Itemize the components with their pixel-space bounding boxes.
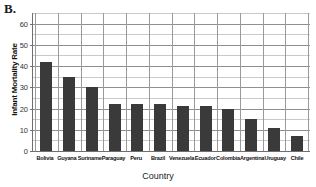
bar xyxy=(154,104,166,151)
y-axis-tick-label: 30 xyxy=(20,83,28,92)
bar xyxy=(109,104,121,151)
bar xyxy=(268,128,280,151)
y-axis-tick-label: 10 xyxy=(20,125,28,134)
x-axis-title: Country xyxy=(0,171,316,181)
y-axis-tick-label: 40 xyxy=(20,62,28,71)
y-axis-tick-label: 20 xyxy=(20,104,28,113)
figure-panel-b: B. Infant Mortality Rate 0102030405060 B… xyxy=(0,0,316,187)
bar-slot xyxy=(103,13,126,151)
x-axis-tick-label: Colombia xyxy=(216,154,240,168)
bar-slot xyxy=(194,13,217,151)
x-axis-tick-label: Suriname xyxy=(78,154,102,168)
y-axis-tick-label: 60 xyxy=(20,19,28,28)
x-axis-tick-label: Paraguay xyxy=(102,154,126,168)
bar xyxy=(177,106,189,151)
y-axis-title: Infant Mortality Rate xyxy=(10,15,19,145)
bar xyxy=(131,104,143,151)
bar-slot xyxy=(126,13,149,151)
bar xyxy=(40,62,52,151)
bar xyxy=(200,106,212,151)
x-axis-tick-label: Argentina xyxy=(240,154,264,168)
bar-slot xyxy=(285,13,308,151)
bar-slot xyxy=(58,13,81,151)
bar-slot xyxy=(240,13,263,151)
x-axis-tick-label: Venezuela xyxy=(169,154,194,168)
y-axis-tick xyxy=(30,151,33,152)
bar xyxy=(222,109,234,151)
x-axis-tick-label: Guyana xyxy=(56,154,78,168)
y-axis-tick-label: 50 xyxy=(20,40,28,49)
bar-slot xyxy=(149,13,172,151)
bar xyxy=(291,136,303,151)
x-axis-tick-label: Ecuador xyxy=(194,154,216,168)
bar xyxy=(86,87,98,151)
plot-area: 0102030405060 xyxy=(32,13,310,152)
x-axis-tick-label: Chile xyxy=(286,154,308,168)
x-axis-tick-label: Uruguay xyxy=(264,154,286,168)
bar-slot xyxy=(263,13,286,151)
bar-series xyxy=(33,13,310,151)
bar xyxy=(245,119,257,151)
x-axis-tick-label: Bolivia xyxy=(34,154,56,168)
y-axis-tick-label: 0 xyxy=(24,147,28,156)
bar-slot xyxy=(35,13,58,151)
bar-slot xyxy=(81,13,104,151)
bar-slot xyxy=(217,13,240,151)
x-axis-tick-label: Peru xyxy=(125,154,147,168)
x-axis-tick-label: Brazil xyxy=(147,154,169,168)
bar xyxy=(63,77,75,151)
panel-label: B. xyxy=(4,2,16,15)
x-axis-tick-labels: BoliviaGuyanaSurinameParaguayPeruBrazilV… xyxy=(32,154,310,168)
bar-slot xyxy=(172,13,195,151)
